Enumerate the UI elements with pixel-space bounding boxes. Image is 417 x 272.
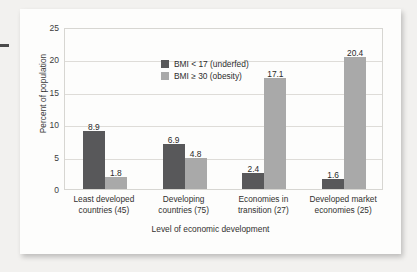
bar-value-label-0-0: 8.9 — [76, 122, 112, 132]
bar-value-label-1-3: 20.4 — [337, 48, 373, 58]
bar-value-label-1-0: 1.8 — [98, 168, 134, 178]
x-category-label-line: economies (25) — [293, 205, 393, 216]
legend-swatch-icon-underfed — [161, 60, 169, 68]
bar-value-label-0-1: 6.9 — [156, 135, 192, 145]
gridline-5 — [65, 159, 382, 160]
y-tick-label-5: 5 — [37, 153, 59, 163]
gridline-10 — [65, 126, 382, 127]
y-tick-label-10: 10 — [37, 120, 59, 130]
gridline-15 — [65, 94, 382, 95]
legend-label-underfed: BMI < 17 (underfed) — [174, 59, 249, 69]
plot-area: 8.91.86.94.82.417.11.620.4 BMI < 17 (und… — [64, 28, 383, 190]
page-edge-artifact — [0, 44, 9, 47]
bar-value-label-1-2: 17.1 — [257, 69, 293, 79]
figure-card: Percent of population 0510152025 8.91.86… — [20, 9, 401, 254]
bar-1-2 — [264, 78, 286, 189]
y-tick-label-15: 15 — [37, 88, 59, 98]
bar-1-0 — [105, 177, 127, 189]
legend-item-underfed: BMI < 17 (underfed) — [161, 59, 249, 69]
legend-item-obesity: BMI ≥ 30 (obesity) — [161, 71, 249, 81]
x-category-label-line: Developed market — [293, 194, 393, 205]
bar-0-0 — [83, 131, 105, 189]
bar-1-3 — [344, 57, 366, 189]
y-tick-label-25: 25 — [37, 23, 59, 33]
x-category-label-3: Developed marketeconomies (25) — [293, 194, 393, 215]
legend-swatch-icon-obesity — [161, 72, 169, 80]
y-tick-label-20: 20 — [37, 55, 59, 65]
bar-value-label-1-1: 4.8 — [178, 149, 214, 159]
legend: BMI < 17 (underfed) BMI ≥ 30 (obesity) — [161, 59, 249, 83]
bar-1-1 — [185, 158, 207, 189]
bar-chart: Percent of population 0510152025 8.91.86… — [20, 9, 401, 254]
bar-0-3 — [322, 179, 344, 189]
bar-0-2 — [242, 173, 264, 189]
legend-label-obesity: BMI ≥ 30 (obesity) — [174, 71, 242, 81]
x-axis-title: Level of economic development — [20, 224, 401, 234]
